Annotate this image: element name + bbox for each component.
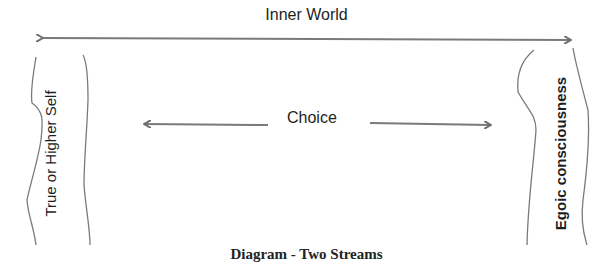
right-stream-inner-border — [573, 48, 589, 245]
inner-world-arrow — [42, 38, 570, 40]
diagram-caption: Diagram - Two Streams — [0, 246, 613, 263]
choice-left-arrow — [145, 124, 268, 125]
choice-label: Choice — [287, 109, 337, 127]
egoic-consciousness-label: Egoic consciousness — [552, 74, 569, 234]
left-stream-outer-border — [27, 57, 42, 245]
choice-right-arrow — [370, 123, 490, 125]
inner-world-label: Inner World — [0, 6, 613, 24]
left-stream-inner-border — [83, 55, 90, 245]
true-higher-self-label: True or Higher Self — [42, 84, 59, 224]
diagram-lines — [0, 0, 613, 279]
right-stream-outer-border — [518, 50, 536, 245]
